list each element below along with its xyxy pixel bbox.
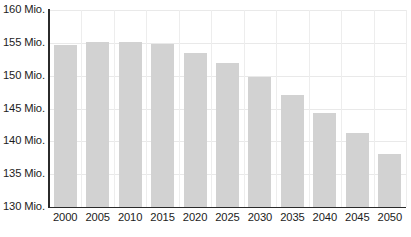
gridline-vertical bbox=[341, 10, 342, 207]
bar-2005 bbox=[86, 42, 109, 207]
y-axis-tick-labels: 130 Mio.135 Mio.140 Mio.145 Mio.150 Mio.… bbox=[0, 10, 45, 207]
gridline-vertical bbox=[309, 10, 310, 207]
y-axis-tick-label: 130 Mio. bbox=[1, 201, 45, 212]
bar-2030 bbox=[248, 77, 271, 207]
gridline-vertical bbox=[81, 10, 82, 207]
bar-2020 bbox=[184, 53, 207, 207]
gridline-vertical bbox=[114, 10, 115, 207]
bar-2045 bbox=[346, 133, 369, 207]
bar-2050 bbox=[378, 154, 401, 207]
y-axis-tick-label: 160 Mio. bbox=[1, 4, 45, 15]
bar-chart: 130 Mio.135 Mio.140 Mio.145 Mio.150 Mio.… bbox=[0, 0, 411, 237]
y-axis-tick-label: 155 Mio. bbox=[1, 37, 45, 48]
gridline-vertical bbox=[406, 10, 407, 207]
bar-2040 bbox=[313, 113, 336, 207]
gridline-vertical bbox=[244, 10, 245, 207]
bar-2010 bbox=[119, 42, 142, 207]
x-axis-tick-labels: 2000200520102015202020252030203520402045… bbox=[49, 210, 406, 232]
y-axis-tick-label: 135 Mio. bbox=[1, 169, 45, 180]
gridline-vertical bbox=[211, 10, 212, 207]
plot-area bbox=[49, 10, 406, 207]
y-axis-tick-label: 140 Mio. bbox=[1, 136, 45, 147]
y-axis-tick-label: 150 Mio. bbox=[1, 70, 45, 81]
y-axis-line bbox=[48, 9, 50, 208]
bar-2000 bbox=[54, 45, 77, 207]
bar-2035 bbox=[281, 95, 304, 207]
bar-2025 bbox=[216, 63, 239, 207]
x-axis-tick-label: 2050 bbox=[370, 212, 410, 223]
gridline-vertical bbox=[146, 10, 147, 207]
x-axis-line bbox=[48, 207, 406, 209]
gridline-vertical bbox=[374, 10, 375, 207]
gridline-horizontal bbox=[49, 10, 406, 11]
bar-2015 bbox=[151, 44, 174, 207]
gridline-vertical bbox=[179, 10, 180, 207]
y-axis-tick-label: 145 Mio. bbox=[1, 103, 45, 114]
gridline-vertical bbox=[276, 10, 277, 207]
